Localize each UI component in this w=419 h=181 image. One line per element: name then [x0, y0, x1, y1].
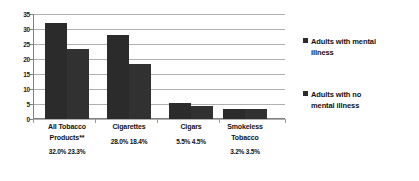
bars-layer — [33, 14, 285, 119]
legend-swatch-icon — [303, 91, 308, 96]
bar — [245, 109, 267, 120]
bar-chart: 05101520253035 All Tobacco Products**32.… — [0, 0, 419, 181]
category-label-block: Smokeless Tobacco3.2% 3.5% — [200, 122, 290, 158]
category-value-labels: 3.2% 3.5% — [200, 147, 290, 158]
bar — [67, 49, 89, 119]
y-tick-label: 5 — [27, 101, 30, 108]
y-tick-label: 15 — [23, 71, 30, 78]
y-tick-label: 25 — [23, 41, 30, 48]
bar — [129, 64, 151, 119]
bar-group — [223, 14, 267, 119]
y-tick-label: 10 — [23, 86, 30, 93]
bar — [223, 109, 245, 119]
bar — [191, 106, 213, 120]
bar — [169, 103, 191, 120]
bar — [45, 23, 67, 119]
category-labels: All Tobacco Products**32.0% 23.3%Cigaret… — [0, 122, 290, 181]
gridline — [33, 119, 285, 120]
bar-group — [169, 14, 213, 119]
legend-label: Adults with no mental illness — [311, 89, 361, 111]
y-tick-label: 35 — [23, 11, 30, 18]
legend-entry-no-mental-illness: Adults with no mental illness — [303, 89, 361, 111]
plot-wrapper: 05101520253035 All Tobacco Products**32.… — [0, 0, 290, 181]
legend-entry-mental-illness: Adults with mental illness — [303, 36, 376, 58]
legend-swatch-icon — [303, 38, 308, 43]
legend-label: Adults with mental illness — [311, 36, 376, 58]
y-tick-label: 20 — [23, 56, 30, 63]
bar-group — [107, 14, 151, 119]
bar-group — [45, 14, 89, 119]
category-value-labels: 32.0% 23.3% — [22, 147, 112, 158]
category-name: Smokeless Tobacco — [200, 122, 290, 143]
y-tick-label: 30 — [23, 26, 30, 33]
bar — [107, 35, 129, 119]
